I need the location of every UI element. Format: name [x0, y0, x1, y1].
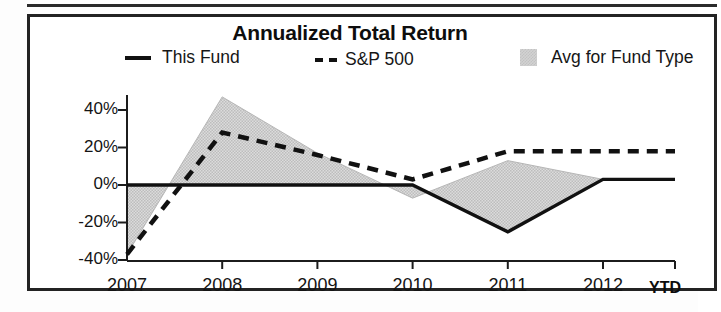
y-tick-label-2: 0%: [58, 174, 118, 194]
x-tick-label-2011: 2011: [468, 275, 548, 296]
x-tick-label-2009: 2009: [277, 275, 357, 296]
avg-for-fund-type-area: [127, 97, 675, 255]
annualized-total-return-card: Annualized Total Return This Fund S&P 50…: [27, 14, 717, 291]
x-tick-label-2008: 2008: [182, 275, 262, 296]
x-tick-label-2007: 2007: [87, 275, 167, 296]
x-tick-label-2012: 2012: [563, 275, 643, 296]
plot-area: 40%20%0%-20%-40% 20072008200920102011201…: [30, 17, 721, 312]
plot-canvas: [30, 17, 721, 312]
y-tick-label-4: -40%: [58, 249, 118, 269]
y-tick-label-3: -20%: [58, 212, 118, 232]
x-tick-label-2010: 2010: [373, 275, 453, 296]
y-tick-label-1: 20%: [58, 137, 118, 157]
y-tick-label-0: 40%: [58, 99, 118, 119]
panel-above-divider: [27, 0, 717, 7]
ytd-note: YTD: [649, 279, 681, 297]
